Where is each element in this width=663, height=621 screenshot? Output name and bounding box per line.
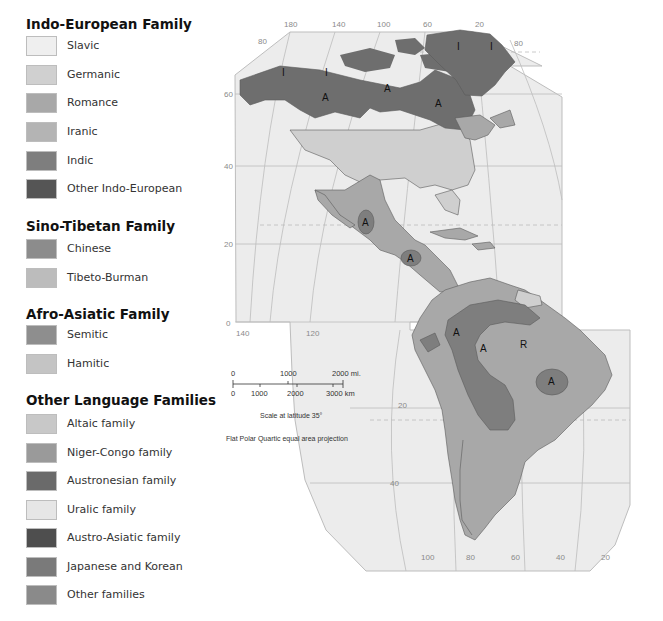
legend-item-germanic: Germanic <box>26 64 120 85</box>
legend-title-cut-off: Languages <box>0 0 92 8</box>
label-amerindian-alaska: A <box>322 92 329 103</box>
legend-item-other-indo-european: Other Indo-European <box>26 178 182 199</box>
legend-item-iranic: Iranic <box>26 121 98 142</box>
scale-latitude-note: Scale at latitude 35° <box>260 412 322 419</box>
swatch-other-indo-european <box>26 179 57 199</box>
swatch-japanese-korean <box>26 557 57 577</box>
svg-text:20: 20 <box>398 401 407 410</box>
legend-item-austro-asiatic: Austro-Asiatic family <box>26 527 180 548</box>
svg-text:80: 80 <box>258 37 267 46</box>
label-amerindian-andes: A <box>480 343 487 354</box>
swatch-slavic <box>26 36 57 56</box>
svg-text:60: 60 <box>511 553 520 562</box>
label-amerindian-ecuador: A <box>453 327 460 338</box>
map-legend: Languages Indo-European Family Slavic Ge… <box>0 0 220 621</box>
svg-text:20: 20 <box>475 20 484 29</box>
swatch-hamitic <box>26 354 57 374</box>
legend-item-other-families: Other families <box>26 584 145 605</box>
legend-item-uralic: Uralic family <box>26 499 136 520</box>
svg-text:40: 40 <box>390 479 399 488</box>
projection-note: Flat Polar Quartic equal area projection <box>226 435 348 442</box>
swatch-romance <box>26 93 57 113</box>
americas-language-map: I I A A A I I A A A A R A 180 140 100 60… <box>220 0 663 621</box>
svg-text:2000 mi.: 2000 mi. <box>332 369 361 378</box>
legend-group-title-other-families: Other Language Families <box>26 392 216 408</box>
svg-text:120: 120 <box>306 329 320 338</box>
label-romance-brazil: R <box>520 339 527 350</box>
svg-text:3000 km: 3000 km <box>326 389 355 398</box>
label-amerindian-canada: A <box>384 83 391 94</box>
swatch-austro-asiatic <box>26 528 57 548</box>
legend-item-tibeto-burman: Tibeto-Burman <box>26 267 148 288</box>
svg-text:40: 40 <box>224 162 233 171</box>
swatch-tibeto-burman <box>26 268 57 288</box>
swatch-germanic <box>26 65 57 85</box>
swatch-iranic <box>26 122 57 142</box>
svg-text:60: 60 <box>224 90 233 99</box>
swatch-niger-congo <box>26 443 57 463</box>
label-inuit-greenland-2: I <box>490 41 493 52</box>
map-canvas: I I A A A I I A A A A R A 180 140 100 60… <box>220 0 663 621</box>
legend-group-title-afro-asiatic: Afro-Asiatic Family <box>26 306 170 322</box>
svg-text:100: 100 <box>421 553 435 562</box>
legend-item-altaic: Altaic family <box>26 413 135 434</box>
swatch-austronesian <box>26 471 57 491</box>
swatch-chinese <box>26 239 57 259</box>
swatch-uralic <box>26 500 57 520</box>
svg-text:100: 100 <box>377 20 391 29</box>
label-inuit-2: I <box>325 67 328 78</box>
legend-item-niger-congo: Niger-Congo family <box>26 442 172 463</box>
legend-item-hamitic: Hamitic <box>26 353 109 374</box>
svg-text:1000: 1000 <box>251 389 268 398</box>
legend-item-semitic: Semitic <box>26 324 108 345</box>
label-inuit-1: I <box>282 67 285 78</box>
svg-text:2000: 2000 <box>287 389 304 398</box>
svg-text:140: 140 <box>332 20 346 29</box>
legend-item-chinese: Chinese <box>26 238 111 259</box>
swatch-altaic <box>26 414 57 434</box>
swatch-indic <box>26 151 57 171</box>
swatch-semitic <box>26 325 57 345</box>
label-amerindian-mexico: A <box>362 217 369 228</box>
svg-text:40: 40 <box>556 553 565 562</box>
svg-text:140: 140 <box>236 329 250 338</box>
svg-text:180: 180 <box>284 20 298 29</box>
svg-text:0: 0 <box>226 319 231 328</box>
svg-text:80: 80 <box>466 553 475 562</box>
svg-text:0: 0 <box>231 389 235 398</box>
legend-group-title-sino-tibetan: Sino-Tibetan Family <box>26 218 175 234</box>
legend-item-austronesian: Austronesian family <box>26 470 176 491</box>
legend-item-slavic: Slavic <box>26 35 99 56</box>
label-inuit-greenland-1: I <box>457 41 460 52</box>
label-amerindian-guatemala: A <box>407 253 414 264</box>
legend-item-indic: Indic <box>26 150 93 171</box>
swatch-other-families <box>26 585 57 605</box>
label-amerindian-brazil: A <box>548 376 555 387</box>
label-amerindian-quebec: A <box>435 98 442 109</box>
svg-text:1000: 1000 <box>280 369 297 378</box>
svg-text:0: 0 <box>231 369 235 378</box>
legend-group-title-indo-european: Indo-European Family <box>26 16 192 32</box>
svg-text:60: 60 <box>423 20 432 29</box>
svg-text:20: 20 <box>224 240 233 249</box>
svg-text:80: 80 <box>514 39 523 48</box>
legend-item-romance: Romance <box>26 92 118 113</box>
svg-text:20: 20 <box>601 553 610 562</box>
legend-item-japanese-korean: Japanese and Korean <box>26 556 183 577</box>
